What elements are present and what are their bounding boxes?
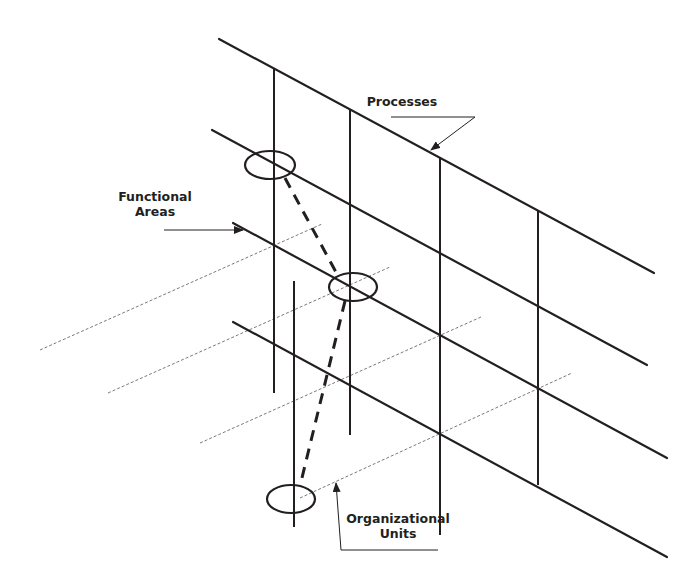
organizational-unit-line-1 — [40, 224, 322, 350]
organizational-units-label: Organizational Units — [338, 511, 458, 541]
highlight-ellipses — [245, 151, 377, 513]
highlight-ellipse-1 — [245, 151, 295, 179]
processes-callout — [391, 117, 475, 150]
connector-segment-2 — [300, 301, 345, 486]
organizational-unit-line-4 — [300, 373, 572, 498]
functional-areas-label-line1: Functional — [110, 189, 200, 204]
processes-leader-arrow — [431, 117, 475, 150]
organizational-units-label-line2: Units — [338, 526, 458, 541]
processes-label-line1: Processes — [364, 94, 440, 109]
processes-label: Processes — [364, 94, 440, 109]
organizational-units-label-line1: Organizational — [338, 511, 458, 526]
matrix-diagram — [0, 0, 699, 584]
highlight-ellipse-3 — [267, 485, 315, 513]
functional-areas-label: Functional Areas — [110, 189, 200, 219]
functional-areas-label-line2: Areas — [110, 204, 200, 219]
process-line-1 — [219, 39, 654, 273]
